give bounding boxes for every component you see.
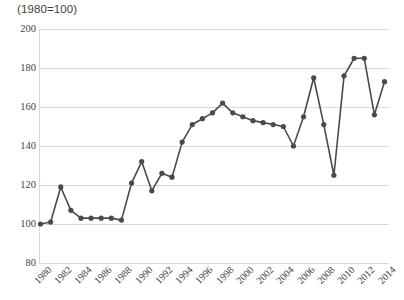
data-point [149, 188, 154, 193]
data-point [99, 216, 104, 221]
data-point [200, 116, 205, 121]
data-point [58, 184, 63, 189]
data-point [362, 56, 367, 61]
data-point [48, 219, 53, 224]
data-point [240, 114, 245, 119]
data-point [382, 79, 387, 84]
data-point [159, 171, 164, 176]
data-point [372, 112, 377, 117]
data-point [210, 110, 215, 115]
data-point [139, 159, 144, 164]
data-point [109, 216, 114, 221]
data-point [250, 118, 255, 123]
data-point [88, 216, 93, 221]
data-point [78, 216, 83, 221]
data-point [190, 122, 195, 127]
data-point [129, 180, 134, 185]
data-point [271, 122, 276, 127]
data-point [321, 122, 326, 127]
data-point [352, 56, 357, 61]
series-line [41, 58, 385, 224]
data-point [119, 218, 124, 223]
data-point [220, 101, 225, 106]
data-point [38, 221, 43, 226]
series-layer [0, 0, 404, 300]
data-point [180, 140, 185, 145]
chart-container: (1980=100) 20018016014012010080 19801982… [0, 0, 404, 300]
data-point [301, 114, 306, 119]
data-point [281, 124, 286, 129]
data-point [341, 73, 346, 78]
data-point [331, 173, 336, 178]
data-point [291, 143, 296, 148]
data-point [260, 120, 265, 125]
data-point [311, 75, 316, 80]
data-point [230, 110, 235, 115]
data-point [68, 208, 73, 213]
data-point [169, 175, 174, 180]
